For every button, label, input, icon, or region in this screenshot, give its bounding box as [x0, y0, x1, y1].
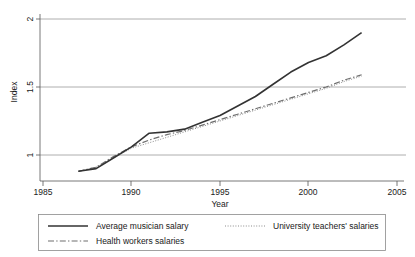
legend-label-average-musician: Average musician salary — [96, 221, 189, 231]
series-line-health-workers — [78, 75, 361, 172]
y-tick-label-2: 2 — [25, 16, 35, 21]
chart-figure: 2 1.5 1 Index 1985 1990 1995 2000 2005 Y… — [0, 0, 415, 257]
x-tick-label-2005: 2005 — [388, 187, 407, 197]
x-tick-label-1985: 1985 — [34, 187, 53, 197]
legend-label-university-teachers: University teachers' salaries — [273, 221, 379, 231]
series-line-average-musician — [78, 33, 361, 172]
x-axis-title: Year — [211, 199, 228, 209]
x-axis: 1985 1990 1995 2000 2005 Year — [34, 181, 407, 209]
series-group — [78, 33, 361, 172]
legend-border — [39, 215, 386, 251]
series-line-university-teachers — [78, 76, 361, 171]
y-axis: 2 1.5 1 Index — [9, 14, 40, 181]
y-tick-label-1point5: 1.5 — [25, 81, 35, 93]
x-tick-label-2000: 2000 — [299, 187, 318, 197]
legend-label-health-workers: Health workers salaries — [96, 236, 184, 246]
x-tick-label-1990: 1990 — [122, 187, 141, 197]
line-chart: 2 1.5 1 Index 1985 1990 1995 2000 2005 Y… — [0, 0, 415, 257]
x-tick-label-1995: 1995 — [211, 187, 230, 197]
y-tick-label-1: 1 — [25, 152, 35, 157]
y-axis-title: Index — [9, 81, 19, 103]
legend: Average musician salary University teach… — [39, 215, 386, 251]
